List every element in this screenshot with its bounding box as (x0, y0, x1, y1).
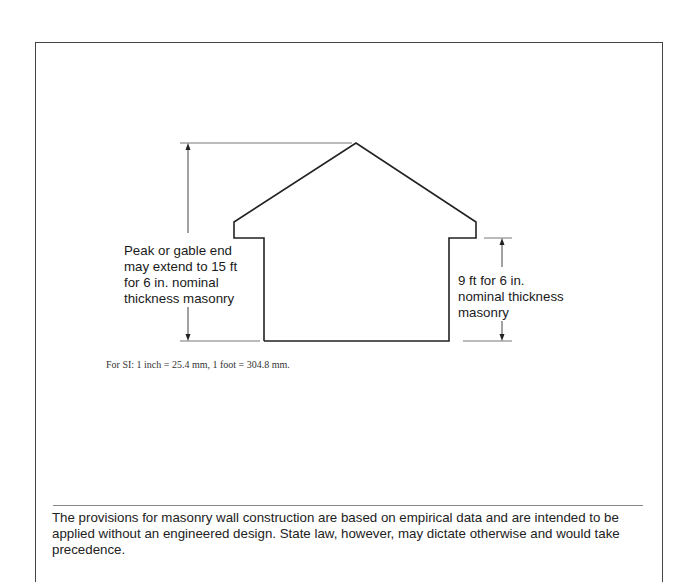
right-dimension-label: 9 ft for 6 in. nominal thickness masonry (458, 273, 564, 321)
footer-divider (53, 505, 643, 506)
footer-paragraph: The provisions for masonry wall construc… (52, 510, 652, 558)
left-dimension-arrow (186, 143, 191, 341)
house-outline (234, 143, 476, 341)
si-conversion-note: For SI: 1 inch = 25.4 mm, 1 foot = 304.8… (106, 359, 290, 370)
left-dimension-label: Peak or gable end may extend to 15 ft fo… (124, 243, 237, 307)
